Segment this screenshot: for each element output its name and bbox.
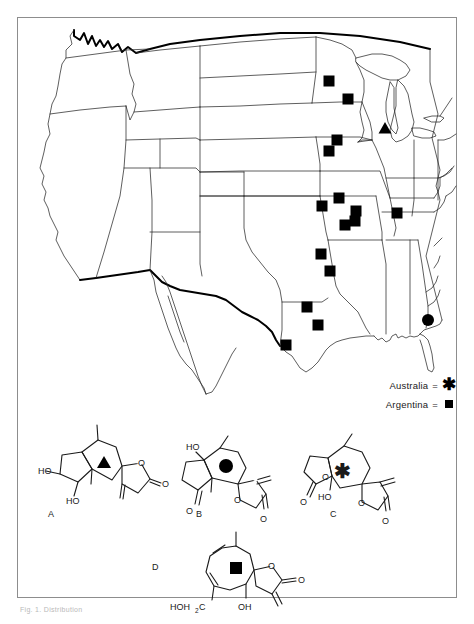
legend-label-australia: Australia <box>389 380 428 391</box>
structure-D-label-HOH2C: HOH <box>170 602 190 612</box>
figure-caption: Fig. 1. Distribution <box>20 606 82 613</box>
structure-D-label-HOH2C-tail: C <box>199 602 206 612</box>
legend-row-argentina: Argentina = <box>356 395 456 414</box>
figure-root: Australia = ✱ Argentina = <box>0 0 474 624</box>
legend-equals-australia: = <box>432 380 438 391</box>
structure-D-label-HOH2C-sub: 2 <box>195 607 199 614</box>
legend-equals-argentina: = <box>432 399 438 410</box>
structure-D-label-OH: OH <box>238 602 252 612</box>
square-icon <box>442 400 456 410</box>
symbol-legend: Australia = ✱ Argentina = <box>356 376 456 414</box>
legend-label-argentina: Argentina <box>386 399 428 410</box>
figure-frame <box>17 17 457 598</box>
asterisk-icon: ✱ <box>442 380 456 391</box>
legend-row-australia: Australia = ✱ <box>356 376 456 395</box>
